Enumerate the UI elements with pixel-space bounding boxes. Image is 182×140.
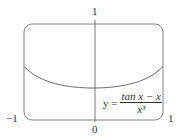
equation-denominator: x³ [137,103,145,115]
equation-fraction: tan x − x x³ [120,91,162,115]
function-curve [24,66,163,88]
equation-numerator: tan x − x [120,91,162,103]
plot-area [0,0,182,140]
x-tick-label-neg1: −1 [6,113,18,124]
x-tick-label-0: 0 [92,124,98,135]
x-tick-label-1: 1 [168,113,174,124]
equation-label: y = tan x − x x³ [103,91,162,115]
equation-lhs: y = [103,97,117,109]
y-tick-label-1: 1 [92,6,98,17]
